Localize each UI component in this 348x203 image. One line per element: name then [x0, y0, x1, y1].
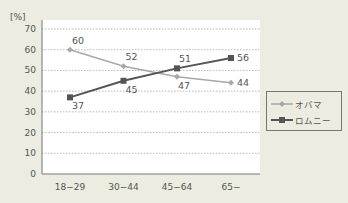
legend-item-romney: ロムニー: [271, 113, 331, 127]
y-axis-unit: [%]: [10, 12, 26, 22]
data-label: 60: [72, 35, 84, 46]
legend-label: オバマ: [295, 98, 322, 110]
y-tick-label: 70: [25, 24, 37, 34]
data-label: 45: [126, 84, 138, 95]
x-tick-label: 65−: [222, 182, 241, 192]
y-tick-label: 50: [25, 65, 37, 75]
data-label: 44: [237, 77, 249, 88]
square-marker-icon: [271, 116, 293, 124]
y-tick-label: 40: [25, 86, 37, 96]
square-marker-icon: [228, 55, 234, 61]
x-tick-label: 30−44: [108, 182, 139, 192]
diamond-marker-icon: [271, 100, 293, 108]
legend: オバマ ロムニー: [266, 91, 342, 131]
data-label: 37: [72, 100, 84, 111]
data-label: 52: [126, 51, 138, 62]
x-tick-label: 18−29: [55, 182, 86, 192]
x-tick-labels: 18−2930−4445−6465−: [55, 182, 241, 192]
y-tick-labels: 010203040506070: [25, 24, 37, 179]
data-label: 56: [237, 52, 249, 63]
data-label: 47: [178, 80, 190, 91]
data-label: 51: [179, 53, 191, 64]
legend-label: ロムニー: [295, 114, 331, 126]
legend-item-obama: オバマ: [271, 97, 322, 111]
y-tick-label: 60: [25, 45, 37, 55]
y-tick-label: 30: [25, 107, 37, 117]
x-tick-label: 45−64: [162, 182, 193, 192]
y-tick-label: 20: [25, 128, 37, 138]
y-tick-label: 10: [25, 148, 37, 158]
square-marker-icon: [174, 65, 180, 71]
y-tick-label: 0: [30, 169, 36, 179]
